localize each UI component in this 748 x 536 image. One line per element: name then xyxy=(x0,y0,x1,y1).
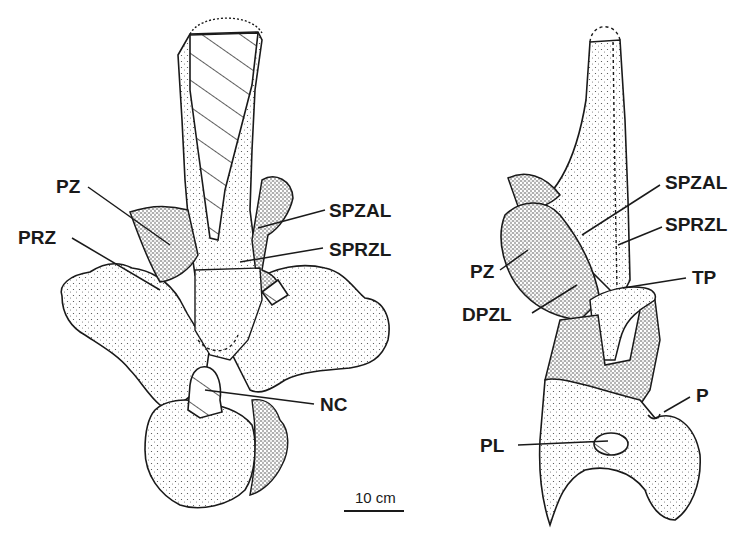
centrum-side xyxy=(250,400,288,495)
label-sprzl-left: SPRZL xyxy=(329,240,391,259)
label-prz-left: PRZ xyxy=(18,228,56,247)
label-dpzl-right: DPZL xyxy=(462,305,512,324)
right-vertebra-view xyxy=(500,27,700,525)
vertebra-figure: PZ PRZ SPZAL SPRZL NC SPZAL SPRZL PZ TP … xyxy=(0,0,748,536)
left-vertebra-view xyxy=(61,18,389,508)
scale-bar-label: 10 cm xyxy=(355,490,396,505)
left-transverse-process xyxy=(61,264,210,406)
label-sprzl-right: SPRZL xyxy=(665,215,727,234)
vertebra-illustration xyxy=(0,0,748,536)
label-pz-right: PZ xyxy=(470,262,494,281)
pleurocoel xyxy=(594,433,628,455)
label-nc-left: NC xyxy=(320,395,347,414)
leader-tp-right xyxy=(623,278,686,288)
label-p-right: P xyxy=(696,386,709,405)
neural-canal xyxy=(188,367,222,418)
label-pz-left: PZ xyxy=(56,177,80,196)
label-tp-right: TP xyxy=(692,268,716,287)
label-spzal-right: SPZAL xyxy=(665,173,727,192)
label-pl-right: PL xyxy=(480,436,504,455)
leader-p-right xyxy=(664,397,690,412)
label-spzal-left: SPZAL xyxy=(329,201,391,220)
